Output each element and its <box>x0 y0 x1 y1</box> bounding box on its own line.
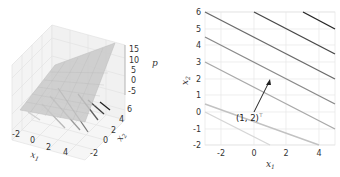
contour-plot: (1, 2)⊤ 6 5 4 3 2 1 0 -1 -2 -2 0 2 4 x1 … <box>180 8 335 170</box>
svg-text:6: 6 <box>196 8 201 17</box>
svg-text:-1: -1 <box>193 125 201 134</box>
y-axis-label: x2 <box>180 76 191 85</box>
svg-text:0: 0 <box>30 136 35 145</box>
svg-text:2: 2 <box>111 126 116 135</box>
gradient-arrow <box>254 79 271 112</box>
y-axis-ticks: 6 5 4 3 2 1 0 -1 -2 <box>193 8 201 150</box>
grid <box>205 12 335 145</box>
svg-text:4: 4 <box>63 148 68 157</box>
x-axis-label: x1 <box>266 159 275 170</box>
svg-text:-2: -2 <box>193 141 201 150</box>
svg-text:x1: x1 <box>29 149 40 162</box>
svg-text:2: 2 <box>46 143 51 152</box>
svg-text:3: 3 <box>196 58 201 67</box>
svg-text:10: 10 <box>129 56 139 65</box>
x-axis-ticks: -2 0 2 4 <box>217 149 322 158</box>
svg-text:4: 4 <box>119 115 124 124</box>
svg-text:0: 0 <box>103 136 108 145</box>
arrow-annotation: (1, 2)⊤ <box>236 112 263 123</box>
svg-text:5: 5 <box>131 66 136 75</box>
svg-text:1: 1 <box>196 91 201 100</box>
plot-frame <box>205 12 335 145</box>
svg-text:-2: -2 <box>12 130 20 139</box>
svg-text:0: 0 <box>251 149 256 158</box>
contour-lines <box>205 12 335 145</box>
svg-text:-2: -2 <box>90 149 98 158</box>
svg-text:-2: -2 <box>217 149 225 158</box>
svg-text:6: 6 <box>127 105 132 114</box>
svg-text:p: p <box>152 58 158 68</box>
z-axis: 15 10 5 0 -5 p <box>125 45 158 96</box>
svg-text:x2: x2 <box>114 130 128 143</box>
svg-text:2: 2 <box>196 75 201 84</box>
svg-text:4: 4 <box>196 41 201 50</box>
svg-text:0: 0 <box>196 108 201 117</box>
figure: 15 10 5 0 -5 p -2 0 2 4 x1 -2 0 2 4 6 x2 <box>0 0 340 177</box>
svg-text:5: 5 <box>196 25 201 34</box>
surface-3d-plot: 15 10 5 0 -5 p -2 0 2 4 x1 -2 0 2 4 6 x2 <box>12 25 158 162</box>
svg-text:-5: -5 <box>128 87 136 96</box>
svg-text:2: 2 <box>283 149 288 158</box>
svg-text:4: 4 <box>316 149 321 158</box>
svg-text:15: 15 <box>129 45 139 54</box>
svg-text:0: 0 <box>131 76 136 85</box>
